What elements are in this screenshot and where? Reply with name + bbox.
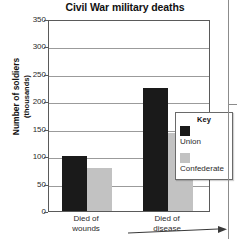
legend-item-union: Union: [180, 126, 232, 150]
bar-confederate-0: [87, 168, 112, 211]
x-tick-label-line: wounds: [72, 224, 100, 233]
y-tick-label: 150: [2, 126, 46, 134]
x-tick-label-line: Died of: [154, 214, 179, 223]
y-axis-ticks: 050100150200250300350: [0, 20, 46, 212]
gridline: [49, 76, 209, 77]
y-tick-mark: [44, 212, 48, 213]
legend-swatch-confederate: [180, 153, 190, 163]
chart-title: Civil War military deaths: [38, 1, 212, 13]
y-tick-label: 100: [2, 153, 46, 161]
bar-union-1: [143, 88, 168, 211]
y-tick-label: 200: [2, 98, 46, 106]
legend-label-confederate: Confederate: [180, 164, 224, 173]
x-tick-label: Died ofwounds: [54, 214, 118, 233]
right-margin-tick: [228, 104, 237, 105]
x-tick-label-line: Died of: [73, 214, 98, 223]
legend-label-union: Union: [180, 137, 201, 146]
gridline: [49, 103, 209, 104]
legend-item-confederate: Confederate: [180, 153, 232, 177]
gridline: [49, 48, 209, 49]
y-tick-label: 50: [2, 181, 46, 189]
bottom-arrow-icon: [128, 226, 228, 236]
y-tick-label: 0: [2, 208, 46, 216]
right-margin-rule: [228, 0, 229, 239]
y-tick-label: 350: [2, 16, 46, 24]
legend: Key UnionConfederate: [175, 112, 233, 180]
y-tick-label: 250: [2, 71, 46, 79]
bar-union-0: [62, 156, 87, 211]
legend-swatch-union: [180, 126, 190, 136]
legend-title: Key: [176, 115, 232, 124]
y-tick-label: 300: [2, 43, 46, 51]
chart-figure: Civil War military deaths Number of sold…: [0, 0, 237, 239]
